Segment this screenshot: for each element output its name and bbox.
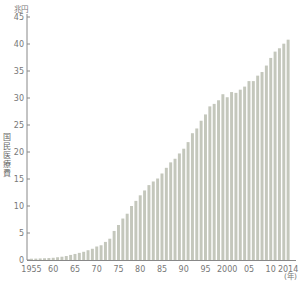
bar-2007: [256, 76, 259, 260]
bar-1964: [69, 255, 72, 260]
bar-1972: [104, 242, 107, 260]
y-tick-label: 35: [14, 67, 24, 76]
x-tick-label: 70: [92, 265, 102, 274]
x-axis: 19556065707580859095200005102014: [21, 261, 298, 275]
medical-expenditure-bar-chart: 兆円 国民医療費 051015202530354045 195560657075…: [0, 0, 302, 283]
bar-1971: [100, 245, 103, 260]
bar-1993: [195, 128, 198, 260]
bars: [30, 40, 290, 260]
y-tick-label: 0: [19, 256, 24, 265]
bar-1976: [121, 219, 124, 260]
bar-1957: [39, 258, 42, 260]
bar-2004: [243, 87, 246, 260]
bar-1989: [178, 153, 181, 260]
bar-1983: [152, 181, 155, 260]
bar-2012: [278, 48, 281, 260]
bar-1997: [213, 104, 216, 260]
bar-1988: [174, 159, 177, 260]
bar-1977: [126, 214, 129, 260]
x-tick-label: 1955: [21, 265, 41, 274]
bar-1969: [91, 249, 94, 260]
bar-1970: [95, 247, 98, 261]
bar-1965: [74, 254, 77, 260]
x-tick-label: 75: [113, 265, 123, 274]
bar-1982: [147, 185, 150, 260]
y-tick-label: 30: [14, 94, 24, 103]
svg-text:療: 療: [3, 159, 11, 169]
bar-1966: [78, 253, 81, 260]
bar-1975: [117, 225, 120, 260]
y-tick-label: 45: [14, 13, 24, 22]
svg-text:民: 民: [3, 142, 11, 151]
bar-2014: [287, 40, 290, 260]
x-unit-label: (年): [284, 271, 297, 281]
svg-text:費: 費: [3, 168, 11, 178]
bar-1979: [134, 201, 137, 260]
bar-1998: [217, 100, 220, 260]
y-tick-label: 25: [14, 121, 24, 130]
bar-1984: [156, 179, 159, 260]
svg-text:国: 国: [3, 133, 11, 142]
bar-2013: [282, 44, 285, 260]
bar-1985: [161, 173, 164, 260]
y-axis-label: 国民医療費: [3, 133, 11, 178]
bar-1980: [139, 195, 142, 260]
x-tick-label: 05: [244, 265, 254, 274]
bar-2005: [248, 81, 251, 260]
bar-1978: [130, 206, 133, 260]
bar-1967: [82, 252, 85, 260]
bar-2000: [226, 97, 229, 260]
bar-1961: [56, 257, 59, 260]
bar-2011: [274, 52, 277, 260]
bar-1995: [204, 114, 207, 260]
bar-1986: [165, 168, 168, 260]
x-tick-label: 80: [135, 265, 145, 274]
bar-1963: [65, 256, 68, 260]
y-tick-label: 40: [14, 40, 24, 49]
bar-1962: [60, 257, 63, 260]
bar-1960: [52, 258, 55, 260]
bar-1996: [208, 106, 211, 260]
bar-1973: [108, 239, 111, 260]
svg-text:医: 医: [3, 151, 11, 160]
bar-2010: [269, 58, 272, 260]
bar-1981: [143, 190, 146, 260]
bar-1958: [43, 258, 46, 260]
bar-1994: [200, 121, 203, 260]
x-tick-label: 90: [179, 265, 189, 274]
bar-1990: [182, 149, 185, 260]
bar-1991: [187, 142, 190, 260]
bar-1968: [87, 250, 90, 260]
bar-2001: [230, 92, 233, 260]
y-tick-label: 5: [19, 229, 24, 238]
bar-1987: [169, 162, 172, 260]
bar-2006: [252, 81, 255, 260]
bar-1974: [113, 231, 116, 260]
bar-1999: [221, 94, 224, 260]
bar-1955: [30, 259, 33, 260]
bar-1959: [47, 258, 50, 260]
bar-1992: [191, 133, 194, 260]
y-tick-label: 20: [14, 148, 24, 157]
bar-2009: [265, 66, 268, 260]
x-tick-label: 60: [48, 265, 58, 274]
y-tick-label: 15: [14, 175, 24, 184]
bar-1956: [34, 259, 37, 260]
bar-2003: [239, 90, 242, 260]
bar-2008: [261, 72, 264, 260]
x-tick-label: 85: [157, 265, 167, 274]
x-tick-label: 2000: [217, 265, 237, 274]
y-axis: 051015202530354045: [14, 13, 30, 265]
x-tick-label: 10: [266, 265, 276, 274]
y-tick-label: 10: [14, 202, 24, 211]
x-tick-label: 65: [70, 265, 80, 274]
x-tick-label: 95: [200, 265, 210, 274]
bar-2002: [234, 93, 237, 260]
